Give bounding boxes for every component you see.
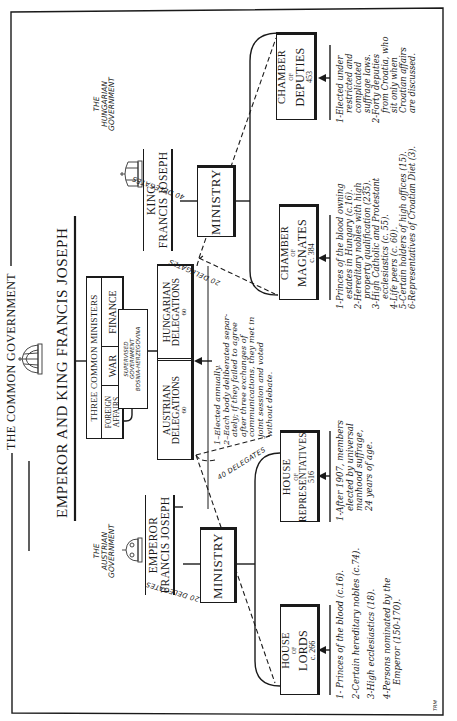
austrian-delegations: AUSTRIAN DELEGATIONS 60	[158, 358, 191, 459]
hungarian-ministry-label: MINISTRY	[209, 169, 222, 235]
house-of-representatives-box: HOUSE OF REPRESENTATIVES 516	[280, 430, 320, 522]
common-government-diagram: THE COMMON GOVERNMENT EMPEROR AND KING F…	[0, 0, 457, 721]
house-line2: DEPUTIES	[294, 47, 306, 106]
lords-note: Emperor (150-170).	[393, 548, 403, 699]
emperor-title: EMPEROR AND KING FRANCIS JOSEPH	[54, 228, 71, 518]
austrian-monarch-line: FRANCIS JOSEPH	[160, 495, 172, 595]
austrian-crown-icon	[122, 536, 144, 564]
hungarian-monarch: KING FRANCIS JOSEPH	[143, 149, 173, 251]
lords-note: 2-Certain hereditary nobles (c.74).	[352, 548, 362, 699]
crown-icon	[18, 342, 44, 376]
supervised-line-3: BOSNIA-HERZEGOVINA	[136, 327, 142, 392]
house-of-representatives-notes: 1-After 1907, members elected by univers…	[336, 420, 375, 521]
hungarian-delegations: HUNGARIAN DELEGATIONS 60	[158, 266, 191, 358]
house-line1: HOUSE	[281, 632, 292, 669]
hungarian-monarch-line: KING	[146, 149, 158, 251]
house-of-lords-box: HOUSE OF LORDS c. 266	[280, 604, 320, 695]
delegations-note: without debate.	[265, 314, 274, 445]
austrian-delegations-count: 60	[181, 407, 188, 414]
delegations-notes: 1–Elected annually. 2–Each body delibera…	[213, 314, 273, 445]
lords-note: 3-High ecclesiastics (18).	[367, 548, 377, 699]
house-line1: CHAMBER	[277, 50, 288, 104]
supervised-government-note: SUPERVISED GOVERNMENT BOSNIA-HERZEGOVINA	[118, 309, 148, 409]
chamber-of-magnates-box: CHAMBER OF MAGNATES c. 384	[279, 204, 319, 300]
hungarian-government-label: THE HUNGARIAN GOVERNMENT	[93, 69, 116, 139]
chamber-of-deputies-notes: 1-Elected under restricted and complicat…	[336, 37, 417, 123]
austrian-label-line: GOVERNMENT	[108, 521, 116, 581]
house-line1: CHAMBER	[280, 226, 291, 280]
deputies-note: are discussed.	[408, 37, 417, 123]
artist-signature: TRM	[432, 700, 438, 711]
house-count: c. 266	[309, 641, 317, 661]
austrian-ministry-label: MINISTRY	[211, 533, 224, 599]
house-count: c. 384	[308, 243, 316, 263]
lords-note: 1- Princes of the blood (c.16).	[336, 548, 346, 699]
austrian-ministry-box: MINISTRY	[200, 527, 237, 603]
house-of-lords-notes: 1- Princes of the blood (c.16). 2-Certai…	[336, 548, 402, 699]
hungarian-label-line: GOVERNMENT	[108, 69, 116, 139]
common-ministers-header: THREE COMMON MINISTERS	[87, 278, 102, 438]
hungarian-monarch-line: FRANCIS JOSEPH	[158, 149, 170, 251]
austrian-government-label: THE AUSTRIAN GOVERNMENT	[93, 521, 116, 581]
frame-title: THE COMMON GOVERNMENT	[4, 270, 19, 453]
house-count: 516	[308, 471, 316, 483]
hungarian-ministry-box: MINISTRY	[197, 165, 236, 237]
chamber-of-deputies-box: CHAMBER OF DEPUTIES 453	[276, 32, 317, 120]
house-line1: HOUSE	[282, 459, 293, 496]
chamber-of-magnates-notes: 1-Princes of the blood owning estates in…	[336, 146, 417, 309]
representatives-note: 24 years of age.	[365, 420, 375, 521]
delegations-box: AUSTRIAN DELEGATIONS 60 HUNGARIAN DELEGA…	[157, 264, 194, 460]
house-count: 453	[306, 71, 314, 83]
magnates-note: 6-Representatives of Croatian Diet (3).	[408, 146, 417, 309]
hungarian-delegations-count: 60	[181, 309, 188, 316]
